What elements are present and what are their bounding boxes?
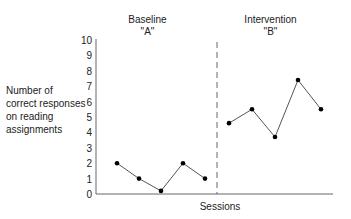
data-point xyxy=(137,176,142,181)
series-line-1 xyxy=(229,80,321,137)
y-tick-label: 5 xyxy=(86,112,92,123)
y-tick-label: 0 xyxy=(86,189,92,200)
y-tick-label: 7 xyxy=(86,81,92,92)
x-axis-label: Sessions xyxy=(190,201,250,212)
data-point xyxy=(296,78,301,83)
phase-a-title: Baseline xyxy=(105,14,190,25)
y-tick-label: 3 xyxy=(86,143,92,154)
phase-b-title: Intervention xyxy=(228,14,313,25)
y-tick-label: 4 xyxy=(86,127,92,138)
data-point xyxy=(159,189,164,194)
y-tick-label: 9 xyxy=(86,50,92,61)
data-point xyxy=(250,107,255,112)
data-point xyxy=(181,161,186,166)
phase-b-code: "B" xyxy=(228,26,313,37)
data-point xyxy=(273,135,278,140)
data-point xyxy=(319,107,324,112)
y-tick-label: 10 xyxy=(81,35,93,46)
y-tick-label: 8 xyxy=(86,66,92,77)
data-point xyxy=(203,176,208,181)
single-subject-design-chart: 012345678910 Baseline "A" Intervention "… xyxy=(0,0,351,219)
data-point xyxy=(115,161,120,166)
y-tick-label: 6 xyxy=(86,97,92,108)
y-tick-label: 2 xyxy=(86,158,92,169)
series-line-0 xyxy=(117,163,205,191)
phase-a-code: "A" xyxy=(105,26,190,37)
y-axis-label: Number of correct responses on reading a… xyxy=(6,84,86,136)
y-tick-label: 1 xyxy=(86,174,92,185)
data-point xyxy=(227,121,232,126)
